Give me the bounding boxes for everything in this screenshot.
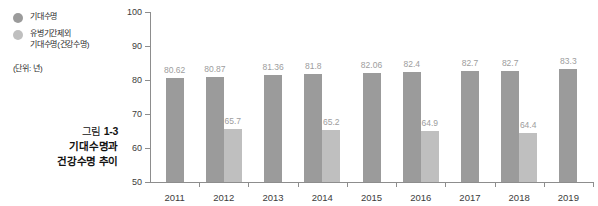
x-axis-label: 2015	[361, 192, 382, 203]
bar-value-label: 65.2	[323, 117, 340, 127]
figure-caption: 그림 1-3 기대수명과 건강수명 추이	[6, 124, 118, 169]
legend-item-label: 기대수명	[30, 12, 57, 23]
bar-healthy-life-expectancy	[421, 131, 439, 182]
y-axis-tick	[145, 182, 150, 183]
bar-value-label: 80.62	[164, 65, 185, 75]
bar-life-expectancy	[166, 78, 184, 182]
unit-note: (단위: 년)	[13, 62, 42, 73]
x-axis-label: 2017	[459, 192, 480, 203]
bar-life-expectancy	[559, 69, 577, 182]
caption-title-line-2: 건강수명 추이	[6, 154, 118, 169]
x-axis-tick	[445, 182, 446, 187]
x-axis-label: 2019	[558, 192, 579, 203]
y-axis-label: 70	[132, 109, 142, 119]
bar-healthy-life-expectancy	[519, 133, 537, 182]
y-axis-tick	[145, 12, 150, 13]
bar-life-expectancy	[461, 71, 479, 182]
bar-healthy-life-expectancy	[224, 129, 242, 182]
x-axis-tick	[298, 182, 299, 187]
bar-value-label: 80.87	[204, 64, 225, 74]
x-axis-tick	[396, 182, 397, 187]
x-axis-tick	[347, 182, 348, 187]
bar-life-expectancy	[403, 72, 421, 182]
y-axis-label: 50	[132, 177, 142, 187]
caption-figure-label: 그림	[82, 125, 104, 137]
bar-value-label: 64.4	[520, 120, 537, 130]
y-axis-label: 60	[132, 143, 142, 153]
y-axis-label: 80	[132, 75, 142, 85]
x-axis-label: 2011	[164, 192, 184, 203]
legend-item-healthy-life-expectancy: 유병기간제외 기대수명(건강수명)	[13, 29, 128, 50]
x-axis-label: 2012	[213, 192, 234, 203]
x-axis-tick	[248, 182, 249, 187]
y-axis-tick	[145, 114, 150, 115]
x-axis-label: 2016	[410, 192, 431, 203]
x-axis-label: 2014	[312, 192, 333, 203]
caption-figure-number-line: 그림 1-3	[6, 124, 118, 139]
caption-figure-number: 1-3	[104, 125, 118, 137]
bar-value-label: 65.7	[225, 116, 242, 126]
x-axis-tick	[593, 182, 594, 187]
bar-life-expectancy	[304, 74, 322, 182]
bar-life-expectancy	[363, 73, 381, 182]
legend-item-life-expectancy: 기대수명	[13, 12, 128, 23]
x-axis-label: 2018	[509, 192, 530, 203]
x-axis-tick	[199, 182, 200, 187]
bar-value-label: 81.36	[262, 62, 283, 72]
y-axis-label: 100	[127, 7, 142, 17]
circle-icon	[13, 13, 23, 23]
bar-life-expectancy	[206, 77, 224, 182]
figure-left-panel: 기대수명 유병기간제외 기대수명(건강수명) (단위: 년) 그림 1-3 기대…	[0, 0, 128, 206]
y-axis-line	[150, 12, 151, 182]
y-axis-tick	[145, 148, 150, 149]
bar-value-label: 82.7	[462, 58, 479, 68]
y-axis-tick	[145, 46, 150, 47]
bar-healthy-life-expectancy	[322, 130, 340, 182]
circle-icon	[13, 30, 23, 40]
caption-title-line-1: 기대수명과	[6, 139, 118, 154]
y-axis-label: 90	[132, 41, 142, 51]
x-axis-line	[150, 182, 593, 183]
chart-axes: 5060708090100 20112012201320142015201620…	[150, 12, 598, 182]
chart-legend: 기대수명 유병기간제외 기대수명(건강수명)	[13, 12, 128, 56]
bar-value-label: 82.06	[361, 60, 382, 70]
bar-value-label: 64.9	[421, 118, 438, 128]
bar-life-expectancy	[264, 75, 282, 182]
bar-value-label: 81.8	[305, 61, 322, 71]
legend-item-label: 유병기간제외 기대수명(건강수명)	[30, 29, 89, 50]
x-axis-label: 2013	[262, 192, 283, 203]
x-axis-tick	[495, 182, 496, 187]
bar-value-label: 83.3	[560, 56, 577, 66]
chart-plot-area: 5060708090100 20112012201320142015201620…	[128, 0, 593, 206]
x-axis-tick	[544, 182, 545, 187]
bar-life-expectancy	[501, 71, 519, 182]
bar-value-label: 82.7	[502, 58, 519, 68]
y-axis-tick	[145, 80, 150, 81]
bar-value-label: 82.4	[403, 59, 420, 69]
